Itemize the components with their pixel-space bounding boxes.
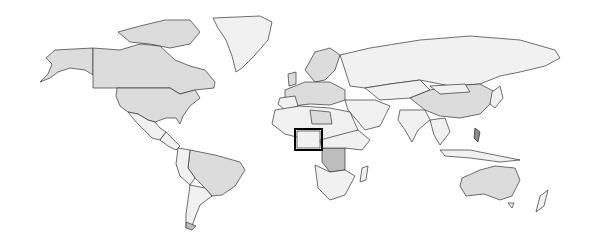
canadian-arctic	[118, 20, 200, 48]
europe	[278, 48, 345, 110]
south-america	[176, 148, 245, 230]
canada	[93, 44, 215, 94]
asia	[340, 36, 560, 162]
nigeria	[297, 131, 320, 148]
argentina-chile	[186, 185, 212, 228]
new-zealand	[536, 190, 548, 212]
tasmania	[508, 203, 514, 208]
indonesia	[440, 150, 520, 162]
libya	[310, 110, 332, 124]
alaska	[40, 48, 93, 82]
australia	[460, 166, 520, 200]
philippines	[474, 128, 480, 142]
uk	[288, 72, 296, 86]
russia	[340, 36, 560, 88]
japan	[490, 86, 503, 108]
dr-congo	[322, 148, 345, 172]
africa	[272, 106, 370, 200]
world-map	[0, 0, 590, 239]
north-america	[40, 16, 272, 150]
usa	[116, 88, 200, 124]
greenland	[213, 16, 272, 72]
southeast-asia	[430, 118, 450, 145]
oceania	[460, 166, 548, 212]
scandinavia	[305, 48, 340, 82]
india	[398, 110, 430, 142]
madagascar	[360, 166, 368, 182]
